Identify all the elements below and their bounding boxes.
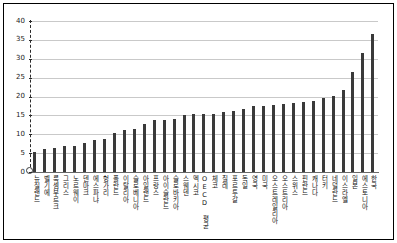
bar-slot: [199, 21, 209, 172]
x-label-slot: 오스트리아: [278, 175, 288, 241]
x-label-slot: 캐나다: [308, 175, 318, 241]
bar: [351, 72, 354, 172]
x-label-slot: 에스토니아: [358, 175, 368, 241]
x-axis-tick-label: 헝가리: [101, 175, 108, 241]
bar: [361, 53, 364, 172]
x-label-slot: 프랑스: [149, 175, 159, 241]
y-axis-tick-mark: [29, 115, 32, 116]
bar: [312, 101, 315, 172]
x-label-slot: 노르웨이: [70, 175, 80, 241]
y-axis-tick-label: 20: [16, 93, 25, 100]
x-axis-category-labels: 뉴질랜드벨기에룩셈부르크그리스노르웨이덴마크에스파냐헝가리폴란드이탈리아슬로베니…: [30, 175, 378, 241]
x-label-slot: 멕시코: [189, 175, 199, 241]
x-axis-tick-label: 한국: [369, 175, 376, 241]
bar: [83, 143, 86, 172]
bar-slot: [318, 21, 328, 172]
bar: [292, 103, 295, 172]
x-axis-tick-label: 에스토니아: [359, 175, 366, 241]
bar-slot: [90, 21, 100, 172]
bar-slot: [50, 21, 60, 172]
x-label-slot: 핀란드: [298, 175, 308, 241]
x-label-slot: 포르투갈: [229, 175, 239, 241]
x-label-slot: 이탈리아: [119, 175, 129, 241]
bar: [192, 114, 195, 172]
bar: [143, 124, 146, 172]
x-label-slot: 슬로베니아: [129, 175, 139, 241]
bar: [302, 102, 305, 172]
x-label-slot: 아일랜드: [139, 175, 149, 241]
bar: [242, 109, 245, 172]
bar-slot: [110, 21, 120, 172]
y-axis-tick-label: 0: [21, 169, 25, 176]
x-axis-tick-label: 오스트레일리아: [270, 175, 277, 241]
bar-slot: [80, 21, 90, 172]
bar-slot: [278, 21, 288, 172]
x-label-slot: 슬로바키아: [169, 175, 179, 241]
bar-series: [30, 21, 378, 172]
x-axis-tick-label: 벨기에: [41, 175, 48, 241]
x-label-slot: 영국: [249, 175, 259, 241]
x-label-slot: 아이슬란드: [159, 175, 169, 241]
x-axis-tick-label: 일본: [349, 175, 356, 241]
bar: [153, 120, 156, 172]
x-axis-tick-label: 체코: [210, 175, 217, 241]
bar-slot: [139, 21, 149, 172]
x-label-slot: 스웨덴: [179, 175, 189, 241]
x-label-slot: 터키: [318, 175, 328, 241]
x-axis-tick-label: 노르웨이: [71, 175, 78, 241]
bar: [252, 106, 255, 172]
bar-slot: [259, 21, 269, 172]
bar: [123, 130, 126, 172]
x-label-slot: 네덜란드: [328, 175, 338, 241]
x-label-slot: 에스파냐: [90, 175, 100, 241]
x-label-slot: 벨기에: [40, 175, 50, 241]
bar-slot: [358, 21, 368, 172]
x-label-slot: OECD 평균: [199, 175, 209, 241]
x-axis-tick-label: 캐나다: [310, 175, 317, 241]
x-axis-line: [30, 172, 379, 173]
x-axis-tick-label: 아이슬란드: [161, 175, 168, 241]
bar-slot: [239, 21, 249, 172]
bar-slot: [169, 21, 179, 172]
y-axis-tick-label: 40: [16, 18, 25, 25]
x-label-slot: 스위스: [288, 175, 298, 241]
bar: [262, 106, 265, 172]
bar-slot: [100, 21, 110, 172]
x-label-slot: 미국: [259, 175, 269, 241]
bar: [212, 114, 215, 173]
x-axis-tick-label: 네덜란드: [329, 175, 336, 241]
x-label-slot: 덴마크: [80, 175, 90, 241]
bar-slot: [298, 21, 308, 172]
x-label-slot: 체코: [209, 175, 219, 241]
bar-slot: [70, 21, 80, 172]
bar: [163, 120, 166, 172]
x-axis-tick-label: 칠레: [220, 175, 227, 241]
x-axis-tick-label: 아일랜드: [141, 175, 148, 241]
x-axis-tick-label: 스웨덴: [180, 175, 187, 241]
x-axis-tick-label: 영국: [250, 175, 257, 241]
x-axis-tick-label: 이스라엘: [339, 175, 346, 241]
y-axis-tick-mark: [29, 153, 32, 154]
x-axis-tick-label: 터키: [320, 175, 327, 241]
bar-slot: [249, 21, 259, 172]
x-axis-tick-label: 그리스: [61, 175, 68, 241]
x-label-slot: 폴란드: [110, 175, 120, 241]
x-label-slot: 일본: [348, 175, 358, 241]
x-axis-tick-label: 슬로베니아: [131, 175, 138, 241]
bar-chart: 0510152025303540 뉴질랜드벨기에룩셈부르크그리스노르웨이덴마크에…: [0, 0, 397, 243]
x-axis-tick-label: 독일: [240, 175, 247, 241]
x-axis-tick-label: 슬로바키아: [170, 175, 177, 241]
bar-slot: [119, 21, 129, 172]
bar: [202, 114, 205, 172]
bar: [232, 111, 235, 172]
x-axis-tick-label: 스위스: [290, 175, 297, 241]
bar: [113, 133, 116, 172]
bar-slot: [288, 21, 298, 172]
bar-slot: [179, 21, 189, 172]
y-axis-tick-label: 25: [16, 74, 25, 81]
y-axis-tick-mark: [29, 134, 32, 135]
bar-slot: [338, 21, 348, 172]
x-label-slot: 헝가리: [100, 175, 110, 241]
y-axis-tick-mark: [29, 59, 32, 60]
bar-slot: [269, 21, 279, 172]
